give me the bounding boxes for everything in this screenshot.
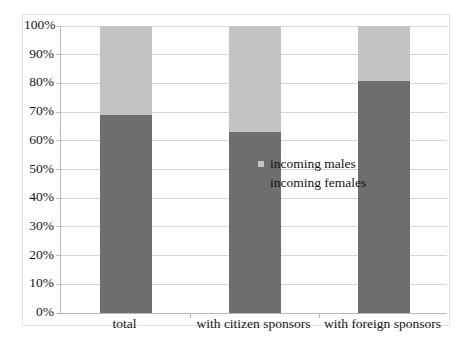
y-axis-tick — [56, 313, 61, 314]
legend-label: incoming females — [270, 176, 366, 190]
y-axis-tick — [56, 198, 61, 199]
bar-segment[interactable] — [229, 26, 281, 132]
bar-column[interactable] — [100, 26, 152, 313]
y-axis-tick — [56, 255, 61, 256]
bar-segment[interactable] — [100, 26, 152, 115]
x-axis-category-label: total — [60, 316, 189, 332]
bar-segment[interactable] — [100, 115, 152, 313]
bar-segment[interactable] — [358, 26, 410, 81]
y-axis-tick — [56, 284, 61, 285]
bar-segment[interactable] — [358, 81, 410, 313]
stacked-bar-chart: 100%90%80%70%60%50%40%30%20%10%0% totalw… — [0, 0, 472, 350]
y-axis-tick — [56, 140, 61, 141]
x-axis-labels: totalwith citizen sponsorswith foreign s… — [60, 316, 447, 340]
y-axis-tick — [56, 169, 61, 170]
y-axis-tick — [56, 112, 61, 113]
y-axis-tick — [56, 26, 61, 27]
legend-label: incoming males — [270, 157, 356, 171]
x-axis-category-label: with citizen sponsors — [189, 316, 318, 332]
y-axis-tick — [56, 226, 61, 227]
y-axis-tick — [56, 54, 61, 55]
legend-item[interactable]: incoming males — [258, 154, 428, 173]
chart-legend: incoming malesincoming females — [258, 154, 428, 192]
legend-swatch — [258, 161, 264, 167]
legend-swatch — [258, 180, 264, 186]
x-axis-category-label: with foreign sponsors — [318, 316, 447, 332]
y-axis-tick — [56, 83, 61, 84]
legend-item[interactable]: incoming females — [258, 173, 428, 192]
